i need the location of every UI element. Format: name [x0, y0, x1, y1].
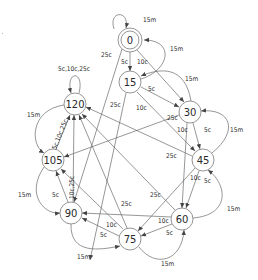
label-0-self: 15m: [143, 16, 156, 24]
label-45-30: 15m: [230, 126, 243, 134]
label-60-45: 15m: [227, 205, 240, 213]
svg-text:0: 0: [127, 35, 133, 46]
label-30-105: 25c: [167, 114, 178, 122]
label-15-105: 25c: [110, 101, 121, 109]
nodes: 0 15 30 45 60 75 90 105: [42, 28, 214, 250]
svg-text:90: 90: [65, 208, 78, 219]
label-45-120: 25c: [166, 152, 177, 160]
state-0: 0: [118, 28, 142, 52]
label-90-75: 15m: [77, 253, 90, 261]
label-105-90: 15m: [18, 191, 31, 199]
label-45-60: 5c: [204, 177, 211, 185]
edge-75-120: [79, 115, 127, 228]
label-75-120: 25c: [121, 200, 132, 208]
state-30: 30: [179, 101, 201, 123]
svg-text:75: 75: [124, 234, 137, 245]
label-15-0: 15m: [170, 45, 183, 53]
edge-30-60: [182, 123, 187, 208]
svg-text:30: 30: [184, 107, 197, 118]
svg-text:60: 60: [176, 214, 189, 225]
state-45: 45: [192, 149, 214, 171]
label-60-120: 25c: [150, 191, 161, 199]
label-15-45: 10c: [136, 104, 147, 112]
label-90-120: 10c,25c: [68, 176, 76, 199]
label-15-30: 5c: [148, 85, 155, 93]
label-120-self: 5c,10c,25c: [58, 65, 90, 73]
label-75-105: 10c: [106, 221, 117, 229]
edge-120-self: [70, 76, 80, 93]
label-60-75: 5c: [166, 229, 173, 237]
state-120: 120: [64, 93, 86, 115]
state-15: 15: [119, 71, 141, 93]
label-60-90: 10c: [158, 217, 169, 225]
edge-30-45: [193, 123, 200, 149]
label-30-45: 5c: [204, 126, 211, 134]
label-75-90: 5c: [100, 231, 107, 239]
state-90: 90: [60, 202, 82, 224]
state-diagram: 0 15 30 45 60 75 90 105: [0, 0, 258, 280]
label-0-15: 5c: [121, 58, 128, 66]
label-90-105: 5c: [52, 191, 59, 199]
label-0-90: 25c: [101, 51, 112, 59]
edge-0-self: [113, 15, 127, 29]
label-105-120: 5c,10c,25c: [50, 118, 69, 151]
label-30-15: 15m: [185, 75, 198, 83]
state-60: 60: [171, 208, 193, 230]
svg-text:105: 105: [43, 155, 62, 166]
state-105: 105: [42, 149, 64, 171]
edge-30-105: [64, 115, 179, 157]
label-45-75: 10c: [190, 174, 201, 182]
svg-text:120: 120: [65, 99, 84, 110]
label-120-105: 15m: [27, 111, 40, 119]
edge-60-120: [82, 114, 175, 210]
label-0-30: 10c: [137, 58, 148, 66]
svg-text:45: 45: [197, 155, 210, 166]
state-75: 75: [119, 228, 141, 250]
label-75-60: 15m: [161, 260, 174, 268]
svg-text:15: 15: [124, 77, 137, 88]
label-30-60: 10c: [177, 126, 188, 134]
